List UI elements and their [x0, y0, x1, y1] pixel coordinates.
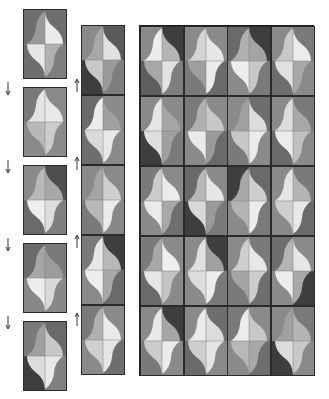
arrow-up-icon — [74, 234, 80, 248]
middle-tile — [81, 25, 125, 95]
grid-tile — [271, 306, 315, 376]
left-tile — [23, 243, 67, 313]
grid-tile — [140, 26, 184, 96]
arrow-down-icon — [5, 82, 11, 96]
grid-tile — [227, 166, 271, 236]
left-tile — [23, 165, 67, 235]
arrow-down-icon — [5, 238, 11, 252]
grid-tile — [271, 26, 315, 96]
arrow-up-icon — [74, 312, 80, 326]
grid-tile — [140, 166, 184, 236]
grid-tile — [184, 236, 228, 306]
grid-tile — [140, 306, 184, 376]
middle-tile — [81, 95, 125, 165]
grid-tile — [140, 236, 184, 306]
grid-tile — [227, 306, 271, 376]
grid-tile — [184, 96, 228, 166]
grid-tile — [184, 26, 228, 96]
middle-tile — [81, 235, 125, 305]
grid-tile — [184, 306, 228, 376]
arrow-up-icon — [74, 156, 80, 170]
middle-tile — [81, 305, 125, 375]
grid-tile — [140, 96, 184, 166]
middle-tile — [81, 165, 125, 235]
grid-tile — [271, 96, 315, 166]
grid-tile — [271, 236, 315, 306]
grid-tile — [227, 26, 271, 96]
arrow-down-icon — [5, 316, 11, 330]
grid-tile — [227, 96, 271, 166]
grid-tile — [184, 166, 228, 236]
left-tile — [23, 87, 67, 157]
arrow-up-icon — [74, 78, 80, 92]
left-tile — [23, 9, 67, 79]
grid-tile — [227, 236, 271, 306]
arrow-down-icon — [5, 160, 11, 174]
left-tile — [23, 321, 67, 391]
main-tile-grid — [139, 25, 314, 376]
grid-tile — [271, 166, 315, 236]
